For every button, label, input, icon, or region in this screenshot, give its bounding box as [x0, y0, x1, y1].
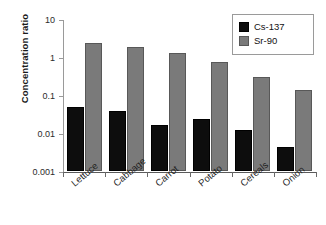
bar-cs-137-cabbage [109, 111, 126, 171]
y-tick-label: 0.1 [42, 91, 55, 101]
bar-sr-90-lettuce [85, 43, 102, 171]
x-tick [316, 172, 317, 177]
chart-legend: Cs-137Sr-90 [232, 14, 314, 55]
y-tick: 1 [59, 58, 64, 59]
bar-sr-90-cereals [253, 77, 270, 171]
y-tick: 10 [59, 20, 64, 21]
x-tick [190, 172, 191, 177]
bar-cs-137-potato [193, 119, 210, 171]
bar-cs-137-lettuce [67, 107, 84, 171]
bar-sr-90-cabbage [127, 47, 144, 171]
y-tick-label: 1 [50, 53, 55, 63]
y-tick-label: 0.001 [32, 167, 55, 177]
black-square-icon [239, 22, 249, 32]
x-tick [63, 172, 64, 177]
y-tick: 0.1 [59, 96, 64, 97]
legend-label: Cs-137 [254, 21, 285, 32]
x-tick [232, 172, 233, 177]
concentration-ratio-bar-chart: Concentration ratio 1010.10.010.001 Lett… [0, 0, 326, 225]
y-tick-label: 0.01 [37, 129, 55, 139]
legend-item-sr-90: Sr-90 [239, 35, 308, 46]
gray-square-icon [239, 36, 249, 46]
bar-sr-90-carrot [169, 53, 186, 171]
y-tick-label: 10 [45, 15, 55, 25]
bar-cs-137-onion [277, 147, 294, 171]
bar-sr-90-potato [211, 62, 228, 171]
bar-cs-137-cereals [235, 130, 252, 171]
legend-label: Sr-90 [254, 35, 277, 46]
x-tick [105, 172, 106, 177]
bar-sr-90-onion [295, 90, 312, 171]
legend-item-cs-137: Cs-137 [239, 21, 308, 32]
y-axis-title: Concentration ratio [19, 0, 30, 134]
x-tick [274, 172, 275, 177]
x-tick [147, 172, 148, 177]
y-tick: 0.01 [59, 134, 64, 135]
bar-cs-137-carrot [151, 125, 168, 171]
